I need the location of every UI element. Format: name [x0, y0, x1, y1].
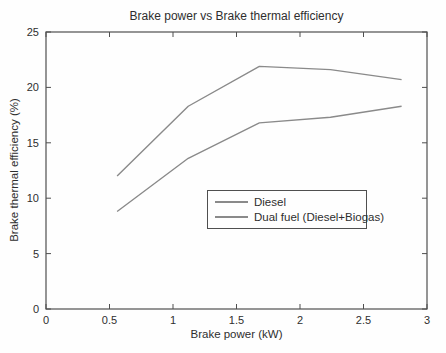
legend: Diesel Dual fuel (Diesel+Biogas) [207, 190, 367, 229]
plot-box [46, 32, 427, 309]
y-tick-label: 25 [27, 26, 39, 38]
series-line-diesel [117, 66, 401, 176]
y-tick-label: 0 [33, 303, 39, 315]
y-tick-label: 10 [27, 192, 39, 204]
y-axis-label: Brake thermal efficiency (%) [8, 98, 20, 242]
x-axis-label: Brake power (kW) [46, 328, 427, 340]
x-tick-label: 3 [424, 314, 430, 326]
y-tick-label: 15 [27, 137, 39, 149]
x-tick-label: 0.5 [102, 314, 117, 326]
y-tick-label: 20 [27, 81, 39, 93]
legend-label-diesel: Diesel [254, 196, 286, 208]
legend-line-sample-diesel [215, 201, 248, 203]
legend-item-dual-fuel: Dual fuel (Diesel+Biogas) [215, 211, 362, 223]
figure: Brake power vs Brake thermal efficiency … [0, 0, 446, 353]
x-tick-label: 0 [43, 314, 49, 326]
legend-label-dual-fuel: Dual fuel (Diesel+Biogas) [254, 211, 384, 223]
x-tick-label: 1 [170, 314, 176, 326]
y-tick-label: 5 [33, 248, 39, 260]
x-tick-label: 2.5 [356, 314, 371, 326]
x-tick-label: 1.5 [229, 314, 244, 326]
x-tick-label: 2 [297, 314, 303, 326]
plot-area: 00.511.522.530510152025 [0, 0, 446, 353]
legend-line-sample-dual-fuel [215, 216, 248, 218]
legend-item-diesel: Diesel [215, 196, 362, 208]
